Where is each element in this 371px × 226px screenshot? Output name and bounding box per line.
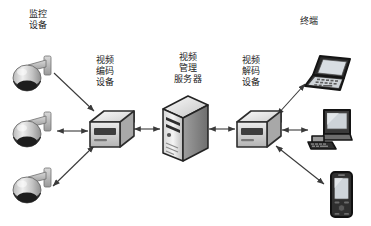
label-video-encoder: 视频 编码 设备	[88, 55, 122, 88]
node-video-encoder	[86, 106, 138, 152]
label-video-management-server: 视频 管理 服务器	[166, 52, 210, 85]
label-video-decoder: 视频 解码 设备	[234, 55, 268, 88]
dome-camera-icon	[8, 108, 56, 156]
network-box-icon	[86, 106, 138, 152]
label-monitoring-device: 监控 设备	[16, 9, 60, 31]
tower-server-icon	[158, 93, 212, 165]
node-management-server	[158, 93, 212, 165]
node-laptop-terminal	[300, 52, 356, 96]
desktop-pc-icon	[306, 106, 358, 154]
node-camera-2	[8, 108, 56, 156]
label-terminal: 终端	[294, 16, 324, 27]
network-diagram: 监控 设备 视频 编码 设备 视频 管理 服务器 视频 解码 设备 终端	[0, 0, 371, 226]
dome-camera-icon	[8, 52, 56, 100]
mobile-phone-icon	[327, 170, 357, 220]
node-camera-1	[8, 52, 56, 100]
node-video-decoder	[233, 106, 285, 152]
dome-camera-icon	[8, 164, 56, 212]
laptop-icon	[300, 52, 356, 96]
node-camera-3	[8, 164, 56, 212]
node-mobile-terminal	[327, 170, 357, 220]
node-desktop-terminal	[306, 106, 358, 154]
network-box-icon	[233, 106, 285, 152]
